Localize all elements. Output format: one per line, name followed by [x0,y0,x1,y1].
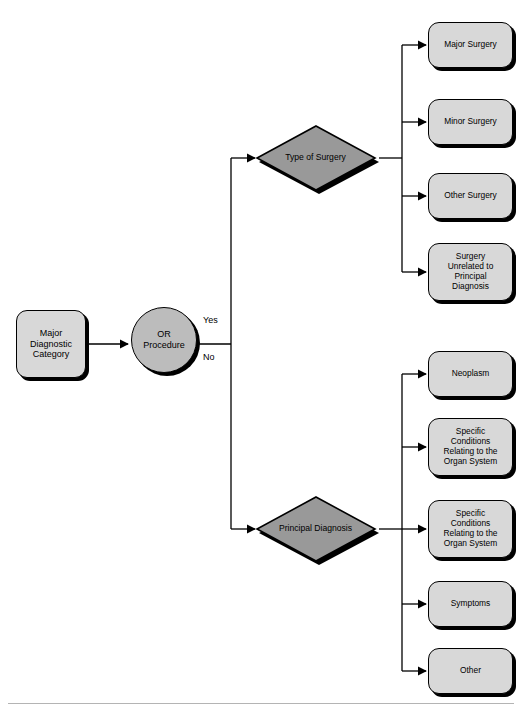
node-specific-conditions-organ-system-2: Specific Conditions Relating to the Orga… [428,500,513,558]
footer-divider [8,703,514,704]
node-label: Symptoms [451,599,491,609]
edge-label-yes: Yes [203,315,218,325]
edge-label-no: No [203,352,215,362]
node-major-diagnostic-category: Major Diagnostic Category [16,310,86,378]
node-label: OR Procedure [143,329,185,350]
node-label: Specific Conditions Relating to the Orga… [443,427,497,467]
flowchart-canvas: Major Diagnostic Category OR Procedure Y… [0,0,523,721]
node-major-surgery: Major Surgery [428,22,513,68]
node-label: Type of Surgery [285,152,346,162]
node-principal-diagnosis: Principal Diagnosis [253,495,381,565]
node-minor-surgery: Minor Surgery [428,99,513,145]
node-label: Other Surgery [444,191,497,201]
node-label: Surgery Unrelated to Principal Diagnosis [448,252,494,292]
footer-caption [9,713,209,721]
node-label: Major Diagnostic Category [30,328,72,360]
node-label: Major Surgery [444,40,497,50]
node-label: Other [460,666,481,676]
node-neoplasm: Neoplasm [428,351,513,397]
node-symptoms: Symptoms [428,581,513,627]
node-surgery-unrelated-to-principal-diagnosis: Surgery Unrelated to Principal Diagnosis [428,243,513,301]
node-label: Specific Conditions Relating to the Orga… [443,509,497,549]
node-specific-conditions-organ-system-1: Specific Conditions Relating to the Orga… [428,418,513,476]
node-type-of-surgery: Type of Surgery [253,124,381,194]
node-label: Neoplasm [452,369,490,379]
node-other: Other [428,648,513,694]
node-other-surgery: Other Surgery [428,173,513,219]
node-label: Minor Surgery [444,117,497,127]
node-label: Principal Diagnosis [279,523,352,533]
node-or-procedure: OR Procedure [131,307,197,373]
